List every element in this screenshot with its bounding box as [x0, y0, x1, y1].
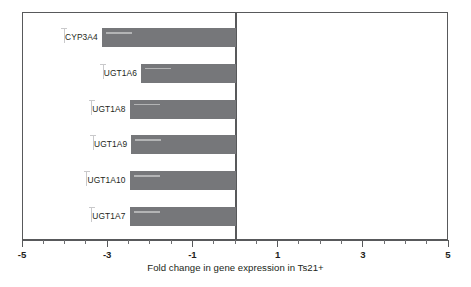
x-tick-major [107, 240, 108, 247]
x-tick-minor [384, 240, 385, 244]
error-bar-whisker [103, 64, 104, 79]
error-bar-whisker [91, 100, 92, 115]
bar-row: UGT1A9 [23, 134, 447, 156]
x-tick-minor [426, 240, 427, 244]
bar-row: UGT1A6 [23, 63, 447, 85]
bar-label: UGT1A9 [94, 140, 127, 148]
x-tick-label: 5 [445, 249, 450, 260]
figure: CYP3A4UGT1A6UGT1A8UGT1A9UGT1A10UGT1A7 -5… [0, 0, 471, 287]
bar-label: UGT1A6 [104, 69, 137, 77]
x-tick-major [448, 240, 449, 247]
x-tick-minor [256, 240, 257, 244]
error-bar-whisker [64, 28, 65, 43]
x-tick-major [362, 240, 363, 247]
x-tick-minor [128, 240, 129, 244]
x-tick-minor [85, 240, 86, 244]
error-bar-whisker [91, 207, 92, 222]
x-tick-major [22, 240, 23, 247]
x-tick-minor [320, 240, 321, 244]
x-tick-major [277, 240, 278, 247]
x-tick-label: -5 [18, 249, 27, 260]
error-bar-whisker [86, 171, 87, 186]
x-tick-minor [43, 240, 44, 244]
bar-row: UGT1A7 [23, 206, 447, 228]
x-tick-minor [235, 240, 236, 244]
bar[interactable] [131, 135, 236, 154]
x-tick-label: -1 [188, 249, 197, 260]
x-tick-minor [405, 240, 406, 244]
x-tick-minor [149, 240, 150, 244]
x-tick-minor [171, 240, 172, 244]
bar[interactable] [130, 100, 237, 119]
bar-label: CYP3A4 [65, 33, 98, 41]
x-tick-minor [341, 240, 342, 244]
x-tick-label: -3 [103, 249, 112, 260]
bar-label: UGT1A10 [88, 176, 126, 184]
bar[interactable] [130, 171, 237, 190]
x-tick-label: 3 [360, 249, 365, 260]
x-tick-minor [64, 240, 65, 244]
x-tick-minor [213, 240, 214, 244]
error-bar-whisker [93, 135, 94, 150]
bar-label: UGT1A7 [92, 212, 125, 220]
plot-area: CYP3A4UGT1A6UGT1A8UGT1A9UGT1A10UGT1A7 [22, 12, 448, 240]
x-tick-minor [298, 240, 299, 244]
bar-row: UGT1A10 [23, 170, 447, 192]
bar[interactable] [130, 207, 237, 226]
bar[interactable] [102, 28, 236, 47]
bar-row: CYP3A4 [23, 27, 447, 49]
x-tick-major [192, 240, 193, 247]
x-tick-label: 1 [275, 249, 280, 260]
bar-row: UGT1A8 [23, 99, 447, 121]
x-axis-title: Fold change in gene expression in Ts21+ [0, 262, 471, 273]
bar[interactable] [141, 64, 236, 83]
bar-label: UGT1A8 [92, 105, 125, 113]
